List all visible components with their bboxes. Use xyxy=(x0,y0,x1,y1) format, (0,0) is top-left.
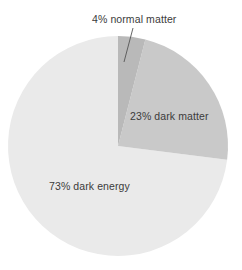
pie-chart-figure: 4% normal matter 23% dark matter 73% dar… xyxy=(0,0,242,270)
pie-chart-canvas xyxy=(0,0,242,270)
pie-label-normal-matter: 4% normal matter xyxy=(92,13,176,25)
pie-label-dark-energy: 73% dark energy xyxy=(49,180,130,192)
pie-label-dark-matter: 23% dark matter xyxy=(130,110,209,122)
